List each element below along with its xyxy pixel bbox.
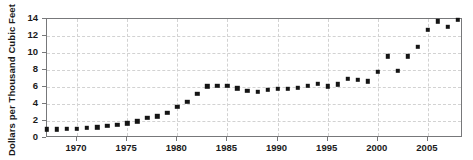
gridline-vertical	[127, 19, 128, 136]
y-axis-tick-label: 2	[20, 114, 38, 125]
gridline-horizontal	[47, 53, 461, 54]
y-axis-tick-label: 0	[20, 131, 38, 142]
data-point	[376, 70, 380, 74]
x-axis-tick-label: 1970	[65, 142, 86, 153]
data-point	[165, 110, 169, 114]
y-axis-tick	[42, 137, 46, 138]
y-axis-tick	[42, 120, 46, 121]
data-point	[195, 92, 199, 96]
data-point	[305, 83, 309, 87]
data-point	[386, 54, 390, 58]
data-point	[396, 69, 400, 73]
x-axis-tick	[76, 137, 77, 141]
data-point	[115, 123, 119, 127]
data-point	[456, 18, 460, 22]
gridline-horizontal	[47, 36, 461, 37]
x-axis-tick	[277, 137, 278, 141]
data-point	[135, 119, 139, 123]
y-axis-tick-label: 10	[20, 46, 38, 57]
data-point	[255, 89, 259, 93]
data-point	[426, 28, 430, 32]
x-axis-tick-label: 1975	[116, 142, 137, 153]
chart-container: Dollars per Thousand Cubic Feet 02468101…	[0, 0, 473, 160]
gridline-horizontal	[47, 87, 461, 88]
gridline-vertical	[328, 19, 329, 136]
data-point	[356, 78, 360, 82]
data-point	[285, 86, 289, 90]
y-axis-tick	[42, 86, 46, 87]
x-axis-tick	[427, 137, 428, 141]
data-point	[55, 127, 59, 131]
gridline-vertical	[77, 19, 78, 136]
data-point	[235, 86, 239, 90]
x-axis-tick	[176, 137, 177, 141]
data-point	[295, 86, 299, 90]
gridline-vertical	[428, 19, 429, 136]
y-axis-tick	[42, 52, 46, 53]
gridline-vertical	[378, 19, 379, 136]
data-point	[185, 99, 189, 103]
data-point	[265, 88, 269, 92]
data-point	[325, 84, 329, 88]
data-point	[125, 121, 129, 125]
data-point	[366, 79, 370, 83]
x-axis-tick-label: 1995	[316, 142, 337, 153]
y-axis-tick	[42, 69, 46, 70]
x-axis-tick	[226, 137, 227, 141]
y-axis-tick-label: 14	[20, 12, 38, 23]
x-axis-tick-label: 1980	[166, 142, 187, 153]
y-axis-tick-label: 6	[20, 80, 38, 91]
gridline-vertical	[278, 19, 279, 136]
data-point	[105, 124, 109, 128]
data-point	[275, 86, 279, 90]
data-point	[155, 114, 159, 118]
x-axis-tick-label: 2000	[366, 142, 387, 153]
data-point	[416, 44, 420, 48]
data-point	[436, 19, 440, 23]
data-point	[225, 84, 229, 88]
x-axis-tick	[327, 137, 328, 141]
data-point	[145, 116, 149, 120]
data-point	[446, 25, 450, 29]
data-point	[406, 54, 410, 58]
x-axis-tick-label: 1985	[216, 142, 237, 153]
y-axis-tick	[42, 103, 46, 104]
y-axis-tick	[42, 35, 46, 36]
y-axis-tick-label: 12	[20, 29, 38, 40]
gridline-horizontal	[47, 104, 461, 105]
data-point	[245, 89, 249, 93]
gridline-vertical	[177, 19, 178, 136]
data-point	[85, 126, 89, 130]
data-point	[95, 125, 99, 129]
gridline-vertical	[227, 19, 228, 136]
data-point	[315, 81, 319, 85]
x-axis-tick	[126, 137, 127, 141]
data-point	[65, 127, 69, 131]
data-point	[215, 84, 219, 88]
data-point	[175, 105, 179, 109]
y-axis-tick-label: 8	[20, 63, 38, 74]
x-axis-tick	[377, 137, 378, 141]
plot-area	[46, 18, 462, 137]
y-axis-title: Dollars per Thousand Cubic Feet	[2, 0, 20, 160]
gridline-horizontal	[47, 121, 461, 122]
data-point	[205, 84, 209, 88]
y-axis-tick-label: 4	[20, 97, 38, 108]
data-point	[335, 82, 339, 86]
data-point	[75, 127, 79, 131]
x-axis-tick-label: 1990	[266, 142, 287, 153]
x-axis-tick-label: 2005	[416, 142, 437, 153]
data-point	[346, 77, 350, 81]
data-point	[45, 127, 49, 131]
y-axis-tick	[42, 18, 46, 19]
